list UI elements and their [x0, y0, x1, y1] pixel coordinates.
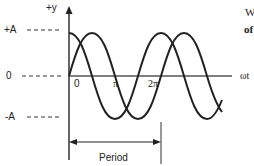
tick-0: 0	[74, 79, 80, 89]
tick-pi: π	[113, 79, 118, 89]
x-axis-label: ωt	[240, 71, 249, 81]
arrow-left-icon	[69, 139, 77, 145]
arrow-right-icon	[153, 139, 161, 145]
y-axis-label: +y	[46, 3, 57, 13]
y-axis-arrow-icon	[66, 6, 73, 14]
plus-a-label: +A	[4, 25, 17, 35]
minus-a-label: -A	[5, 112, 15, 122]
period-label: Period	[99, 153, 128, 163]
zero-label: 0	[6, 71, 12, 81]
side-text-line1: W	[245, 7, 254, 17]
tick-2pi: 2π	[148, 79, 158, 89]
side-text-line2: of	[244, 24, 253, 34]
wave-diagram	[0, 0, 254, 166]
